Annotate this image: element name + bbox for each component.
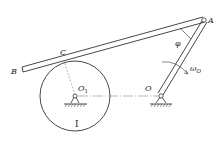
omega-arrow-icon: [162, 62, 188, 74]
bar-OA: [158, 21, 207, 95]
label-A: A: [207, 16, 214, 25]
label-disk-I: I: [75, 119, 79, 129]
angle-phi-arc: [180, 28, 191, 39]
label-O1: O1: [78, 84, 88, 94]
label-C: C: [60, 48, 66, 57]
pin-A: [202, 18, 206, 22]
label-omega: ωO: [190, 64, 202, 74]
label-B: B: [10, 67, 17, 76]
label-phi: φ: [175, 39, 181, 48]
radius-line-O1-C: [64, 61, 75, 95]
label-O: O: [145, 84, 152, 93]
mechanism-diagram: A B C O1 O φ ωO I: [0, 0, 221, 143]
